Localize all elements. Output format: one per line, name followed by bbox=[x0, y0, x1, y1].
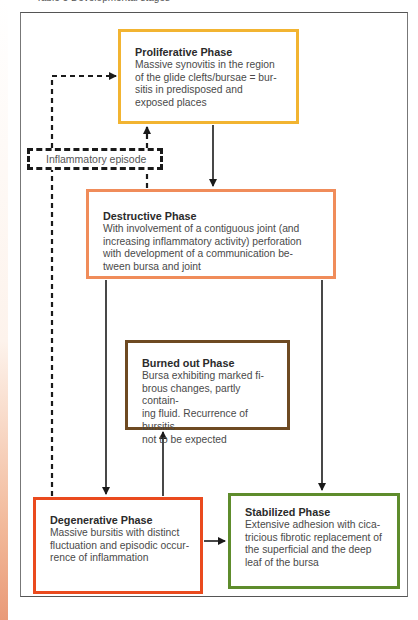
stabilized-phase-description: Extensive adhesion with cica- tricious f… bbox=[245, 519, 387, 570]
inflammatory-episode-box: Inflammatory episode bbox=[27, 148, 163, 170]
destructive-phase-description: With involvement of a contiguous joint (… bbox=[103, 223, 323, 274]
degenerative-phase-box: Degenerative Phase Massive bursitis with… bbox=[33, 497, 203, 594]
proliferative-phase-title: Proliferative Phase bbox=[135, 46, 286, 59]
proliferative-phase-description: Massive synovitis in the region of the g… bbox=[135, 59, 286, 110]
stabilized-phase-title: Stabilized Phase bbox=[245, 506, 387, 519]
degenerative-phase-description: Massive bursitis with distinct fluctuati… bbox=[50, 527, 190, 565]
burned-out-phase-description: Bursa exhibiting marked fi- brous change… bbox=[142, 370, 277, 447]
burned-out-phase-box: Burned out Phase Bursa exhibiting marked… bbox=[125, 340, 290, 430]
stabilized-phase-box: Stabilized Phase Extensive adhesion with… bbox=[228, 493, 400, 589]
proliferative-phase-box: Proliferative Phase Massive synovitis in… bbox=[118, 29, 299, 124]
destructive-phase-title: Destructive Phase bbox=[103, 210, 323, 223]
degenerative-phase-title: Degenerative Phase bbox=[50, 514, 190, 527]
destructive-phase-box: Destructive Phase With involvement of a … bbox=[86, 189, 336, 279]
burned-out-phase-title: Burned out Phase bbox=[142, 357, 277, 370]
dashed-episode-to-proliferative-left bbox=[52, 76, 116, 148]
inflammatory-episode-label: Inflammatory episode bbox=[46, 153, 146, 165]
